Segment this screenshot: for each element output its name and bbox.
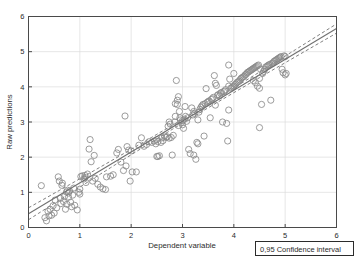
x-axis-title: Dependent variable [148,241,216,250]
x-tick-label: 2 [129,231,133,240]
x-tick-label: 4 [232,231,236,240]
y-tick-label: 4 [20,83,24,92]
y-tick-label: 6 [20,12,24,21]
x-tick-label: 5 [283,231,287,240]
y-tick-label: 1 [20,188,24,197]
x-tick-label: 0 [26,231,30,240]
scatter-plot-figure: 0123456 0123456 Dependent variable Raw p… [0,0,358,267]
legend-confidence-label: 0,95 Confidence interval [260,245,341,254]
y-tick-label: 5 [20,47,24,56]
y-axis-title: Raw predictions [5,94,14,150]
x-tick-label: 1 [78,231,82,240]
x-tick-label: 6 [334,231,338,240]
y-tick-label: 2 [20,153,24,162]
plot-canvas: 0123456 0123456 Dependent variable Raw p… [0,0,358,267]
y-tick-label: 3 [20,118,24,127]
legend-box: 0,95 Confidence interval [256,242,354,256]
figure-background [0,0,358,267]
x-tick-label: 3 [180,231,184,240]
y-tick-label: 0 [20,223,24,232]
